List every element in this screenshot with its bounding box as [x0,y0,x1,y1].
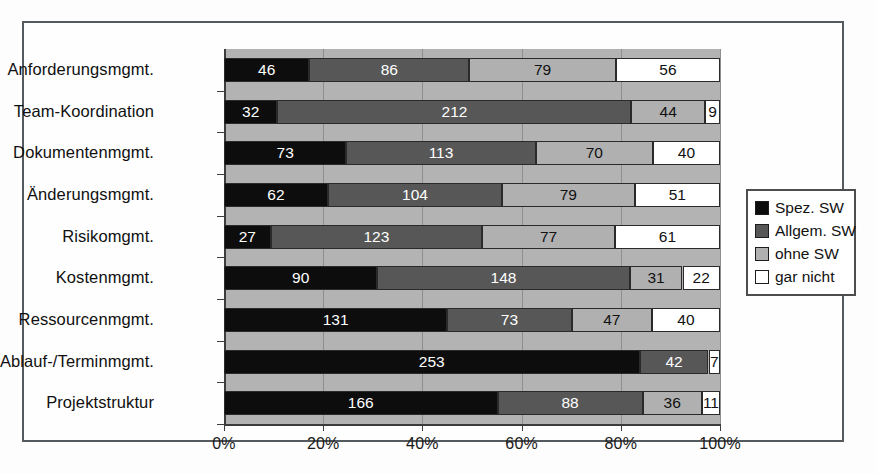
bar-value-label: 42 [665,353,682,371]
x-axis-line [224,424,720,426]
chart-frame: 4686795632212449731137040621047951271237… [22,21,844,442]
bar-value-label: 79 [560,186,577,204]
bar-value-label: 46 [258,61,275,79]
bar-value-label: 104 [402,186,428,204]
legend-label: ohne SW [775,245,839,263]
y-tick [217,341,224,342]
category-label: Ablauf-/Terminmgmt. [0,352,154,371]
y-tick [217,382,224,383]
bar-value-label: 11 [703,394,719,412]
bar-segment: 40 [652,308,720,332]
bar-value-label: 61 [659,228,676,246]
bar-segment: 32 [224,100,277,124]
bar-value-label: 44 [660,103,677,121]
bar-segment: 31 [630,266,683,290]
bar-segment: 61 [615,225,720,249]
bar-segment: 62 [224,183,328,207]
x-axis-label: 20% [307,435,340,453]
bar-value-label: 32 [242,103,259,121]
bar-segment: 51 [635,183,720,207]
bar-value-label: 113 [429,144,454,162]
bar-value-label: 212 [442,103,468,121]
bar-segment: 36 [643,391,702,415]
bar-segment: 113 [346,141,535,165]
bar-value-label: 36 [664,394,681,412]
bar-segment: 56 [616,58,720,82]
bar-segment: 11 [702,391,720,415]
bar-segment: 27 [224,225,271,249]
legend-label: Spez. SW [775,199,844,217]
y-tick [217,91,224,92]
category-label: Risikomgmt. [62,227,154,246]
y-tick [217,216,224,217]
bar-value-label: 22 [693,269,710,287]
bar-segment: 131 [224,308,447,332]
category-label: Projektstruktur [46,393,154,412]
x-axis-label: 80% [604,435,637,453]
y-tick [217,299,224,300]
bar-segment: 44 [631,100,704,124]
bar-value-label: 131 [323,311,349,329]
bar-value-label: 27 [239,228,256,246]
bar-value-label: 90 [292,269,309,287]
legend-item[interactable]: Allgem. SW [755,219,848,242]
bar-segment: 88 [498,391,643,415]
y-tick [217,424,224,425]
bar-segment: 73 [447,308,571,332]
bar-value-label: 73 [277,144,294,162]
bar-segment: 90 [224,266,377,290]
category-label: Ressourcenmgmt. [19,310,154,329]
bar-value-label: 7 [710,353,719,371]
bar-segment: 212 [277,100,631,124]
bar-value-label: 9 [708,103,717,121]
bar-value-label: 51 [669,186,686,204]
bar-segment: 166 [224,391,498,415]
bar-value-label: 31 [647,269,664,287]
x-tick-100% [720,424,721,431]
bar-segment: 40 [653,141,720,165]
legend-label: Allgem. SW [775,222,856,240]
legend-label: gar nicht [775,268,834,286]
bar-segment: 253 [224,350,640,374]
bar-value-label: 253 [419,353,445,371]
bar-segment: 22 [683,266,720,290]
y-tick [217,132,224,133]
legend-item[interactable]: gar nicht [755,265,848,288]
bar-value-label: 88 [561,394,578,412]
legend-swatch-icon [755,201,769,215]
legend-swatch-icon [755,247,769,261]
x-axis-label: 0% [212,435,236,453]
bar-segment: 104 [328,183,502,207]
bar-segment: 47 [572,308,652,332]
x-axis-label: 60% [505,435,538,453]
bar-value-label: 40 [678,144,695,162]
x-axis-label: 100% [699,435,741,453]
bar-value-label: 47 [603,311,620,329]
bar-segment: 73 [224,141,346,165]
bar-value-label: 62 [267,186,284,204]
bar-segment: 46 [224,58,309,82]
bar-value-label: 70 [586,144,603,162]
y-tick [217,257,224,258]
bar-value-label: 73 [501,311,518,329]
legend-swatch-icon [755,270,769,284]
bar-segment: 148 [377,266,629,290]
category-label: Änderungsmgmt. [27,185,154,204]
category-label: Kostenmgmt. [56,268,154,287]
legend-item[interactable]: Spez. SW [755,196,848,219]
bar-segment: 9 [705,100,720,124]
category-label: Dokumentenmgmt. [13,143,154,162]
category-label: Anforderungsmgmt. [7,60,154,79]
bar-segment: 7 [709,350,720,374]
bar-segment: 79 [469,58,616,82]
bar-value-label: 40 [677,311,694,329]
bar-segment: 70 [536,141,653,165]
legend-swatch-icon [755,224,769,238]
bar-value-label: 166 [348,394,374,412]
bar-segment: 42 [640,350,709,374]
x-axis-label: 40% [406,435,439,453]
bar-value-label: 86 [381,61,398,79]
bar-value-label: 123 [363,228,389,246]
legend-item[interactable]: ohne SW [755,242,848,265]
bar-value-label: 79 [534,61,551,79]
